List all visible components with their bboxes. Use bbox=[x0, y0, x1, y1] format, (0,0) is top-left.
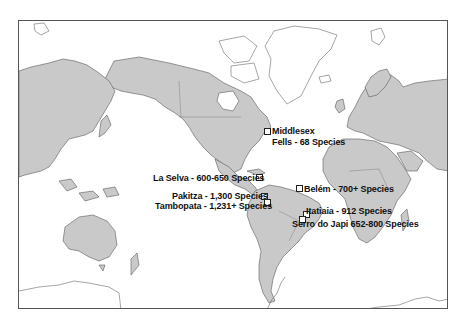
site-label-middlesex-line2: Fells - 68 Species bbox=[272, 137, 345, 147]
site-label-itatiaia: Itatiaia - 912 Species bbox=[306, 206, 392, 216]
site-label-tambopata: Tambopata - 1,231+ Species bbox=[155, 201, 272, 211]
antarctica bbox=[19, 281, 121, 309]
north-america bbox=[105, 57, 271, 173]
map-frame bbox=[18, 20, 448, 309]
site-label-belem: Belém - 700+ Species bbox=[304, 184, 394, 194]
site-label-serro-do-japi: Serro do Japi 652-800 Species bbox=[292, 219, 419, 229]
asia-east bbox=[19, 59, 115, 177]
australia bbox=[63, 215, 117, 261]
greenland bbox=[265, 26, 337, 104]
site-label-la-selva: La Selva - 600-650 Species bbox=[153, 173, 264, 183]
site-marker-middlesex-fells bbox=[264, 128, 271, 135]
site-marker-belem bbox=[296, 185, 303, 192]
site-label-pakitza: Pakitza - 1,300 Species bbox=[172, 191, 268, 201]
world-map bbox=[19, 21, 448, 309]
site-label-middlesex-line1: Middlesex bbox=[272, 126, 315, 136]
